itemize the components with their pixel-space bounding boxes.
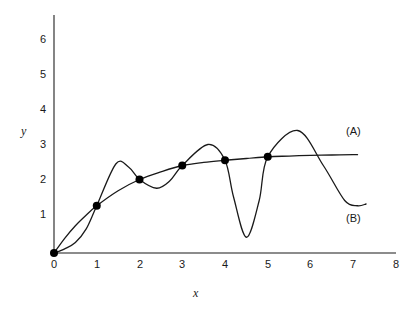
x-tick-label-4: 4 xyxy=(215,258,235,270)
data-point-markers xyxy=(50,153,272,257)
data-point-marker xyxy=(50,249,58,257)
data-point-marker xyxy=(221,156,229,164)
data-point-marker xyxy=(93,202,101,210)
data-point-marker xyxy=(178,162,186,170)
y-tick-label-4: 4 xyxy=(30,103,46,115)
curve-a-label: (A) xyxy=(346,125,361,137)
y-tick-label-6: 6 xyxy=(30,33,46,45)
curves-group xyxy=(54,130,366,253)
x-tick-label-0: 0 xyxy=(44,258,64,270)
chart-figure: 0 1 2 3 4 5 6 7 8 6 5 4 3 2 1 y x (A) (B… xyxy=(0,0,419,314)
x-tick-label-3: 3 xyxy=(172,258,192,270)
data-point-marker xyxy=(264,153,272,161)
axes-group xyxy=(54,15,396,253)
x-tick-label-2: 2 xyxy=(130,258,150,270)
x-tick-label-5: 5 xyxy=(258,258,278,270)
x-tick-label-6: 6 xyxy=(300,258,320,270)
curve-b-path xyxy=(54,130,366,253)
y-tick-label-1: 1 xyxy=(30,208,46,220)
y-tick-label-2: 2 xyxy=(30,173,46,185)
y-axis-title: y xyxy=(21,125,26,137)
y-tick-label-3: 3 xyxy=(30,138,46,150)
x-tick-label-1: 1 xyxy=(87,258,107,270)
y-tick-label-5: 5 xyxy=(30,68,46,80)
curve-b-label: (B) xyxy=(346,212,361,224)
x-tick-label-7: 7 xyxy=(343,258,363,270)
data-point-marker xyxy=(136,176,144,184)
x-tick-label-8: 8 xyxy=(386,258,406,270)
x-axis-title: x xyxy=(193,287,198,299)
